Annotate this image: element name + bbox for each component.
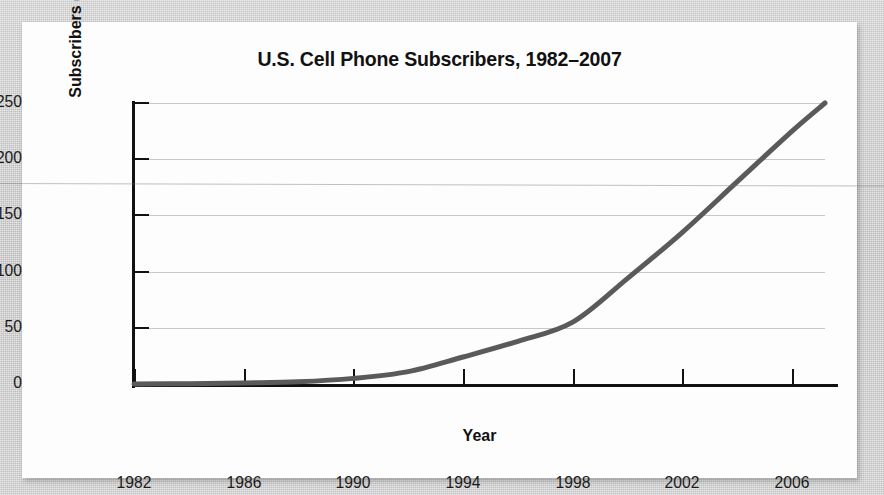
y-axis-tick-label: 200: [0, 148, 22, 168]
y-axis-tick-label: 0: [0, 373, 22, 393]
x-axis-tick-label: 1986: [207, 473, 281, 493]
x-axis-tick-label: 1994: [426, 473, 500, 493]
page-title: U.S. Cell Phone Subscribers, 1982–2007: [51, 47, 828, 71]
x-axis-title: Year: [155, 426, 805, 446]
subscribers-line-series: [134, 103, 825, 384]
y-axis-tick-label: 100: [0, 261, 22, 281]
x-axis-tick-label: 1990: [317, 473, 391, 493]
y-axis-tick-label: 150: [0, 204, 22, 224]
scanned-page-background: U.S. Cell Phone Subscribers, 1982–2007 S…: [0, 0, 884, 495]
plot-area: 050100150200250 198219861990199419982002…: [134, 103, 825, 384]
y-axis-tick-label: 250: [0, 92, 22, 112]
y-axis-title: Subscribers (in millions): [66, 0, 86, 122]
x-axis-tick-label: 2002: [646, 473, 720, 493]
figure-card: U.S. Cell Phone Subscribers, 1982–2007 S…: [22, 22, 857, 478]
x-axis-tick-label: 2006: [755, 473, 829, 493]
y-axis-tick-label: 50: [0, 317, 22, 337]
x-axis-tick-label: 1982: [97, 473, 171, 493]
x-axis-tick-label: 1998: [536, 473, 610, 493]
